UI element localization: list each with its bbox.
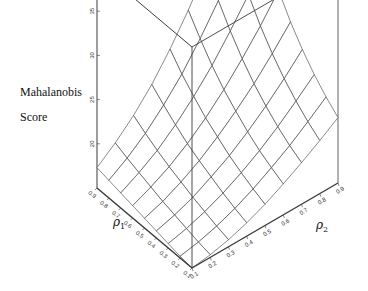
tick-label: 0.5	[135, 229, 146, 239]
tick-label: 0.3	[158, 249, 169, 259]
tick-label: 0.9	[87, 189, 98, 199]
tick-label: 0.4	[146, 239, 157, 249]
surface-plot: 0.10.20.30.40.50.60.70.80.90.10.20.30.40…	[0, 0, 368, 291]
tick-label: 0.3	[225, 249, 236, 259]
tick-label: 0.4	[244, 238, 255, 248]
rho2-axis-title: ρ2	[316, 218, 328, 234]
z-axis-label-line1: Mahalanobis	[20, 85, 82, 100]
rho1-axis-title: ρ1	[113, 215, 125, 231]
tick-label: 25	[89, 96, 95, 103]
tick-label: 0.9	[335, 185, 346, 195]
tick-label: 30	[89, 51, 95, 58]
surface-mesh	[97, 0, 338, 268]
tick-label: 0.5	[262, 228, 273, 238]
tick-label: 0.2	[170, 259, 181, 269]
z-axis-label-line2: Score	[20, 110, 47, 125]
tick-label: 0.8	[99, 199, 110, 209]
tick-label: 0.6	[280, 217, 291, 227]
tick-label: 0.2	[207, 260, 218, 270]
tick-label: 35	[89, 7, 95, 14]
tick-label: 20	[89, 140, 95, 147]
tick-label: 0.7	[298, 207, 309, 217]
tick-label: 0.8	[317, 196, 328, 206]
